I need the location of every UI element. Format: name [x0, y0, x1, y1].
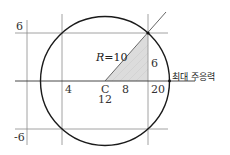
label-height-6: 6 — [151, 57, 158, 70]
label-tau-6: 6 — [16, 20, 23, 33]
label-center-12: 12 — [98, 93, 112, 106]
label-tau-minus6: -6 — [14, 131, 25, 144]
label-sigma-20: 20 — [151, 83, 165, 96]
mohr-circle-diagram: 6 -6 4 C 12 8 20 6 R=10 최대 주응력 — [0, 0, 230, 155]
label-half-base-8: 8 — [122, 83, 129, 96]
label-max-principal-stress: 최대 주응력 — [172, 71, 215, 82]
label-radius: R=10 — [95, 51, 128, 64]
label-sigma-4: 4 — [65, 83, 72, 96]
max-principal-point — [168, 80, 171, 83]
tangent-point — [146, 31, 149, 34]
